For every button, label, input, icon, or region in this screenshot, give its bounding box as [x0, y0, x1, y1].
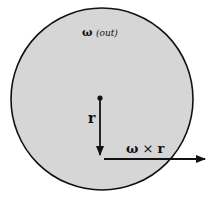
- r-vector-label: r: [88, 110, 95, 126]
- omega-out-label: ω (out): [82, 26, 118, 39]
- cross-product-label: ω × r: [126, 141, 164, 156]
